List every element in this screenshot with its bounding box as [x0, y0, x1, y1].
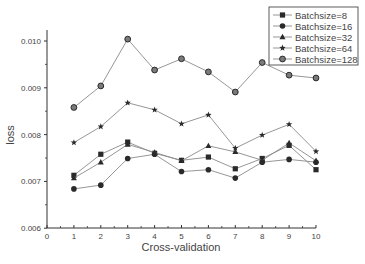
- circle-marker-icon: [280, 23, 286, 29]
- gray-circle-marker-icon: [259, 60, 265, 66]
- star-marker-icon: [151, 106, 157, 112]
- gray-circle-marker-icon: [313, 75, 319, 81]
- circle-marker-icon: [125, 156, 131, 162]
- series-line: [74, 154, 316, 189]
- x-axis-label: Cross-validation: [142, 241, 221, 253]
- x-tick-label: 4: [152, 232, 157, 241]
- gray-circle-marker-icon: [71, 105, 77, 111]
- square-marker-icon: [233, 166, 238, 171]
- x-tick-label: 8: [260, 232, 265, 241]
- x-tick-label: 9: [287, 232, 292, 241]
- x-tick-label: 1: [72, 232, 77, 241]
- triangle-marker-icon: [286, 140, 292, 145]
- x-tick-label: 5: [179, 232, 184, 241]
- circle-marker-icon: [233, 175, 239, 181]
- square-marker-icon: [206, 154, 211, 159]
- star-marker-icon: [259, 132, 265, 138]
- gray-circle-marker-icon: [179, 56, 185, 62]
- gray-circle-marker-icon: [206, 69, 212, 75]
- square-marker-icon: [98, 152, 103, 157]
- legend-label: Batchsize=128: [295, 54, 358, 65]
- legend-label: Batchsize=16: [295, 21, 352, 32]
- gray-circle-marker-icon: [152, 67, 158, 73]
- chart-svg: 0.0060.0070.0080.0090.010012345678910 Ba…: [0, 0, 365, 264]
- star-marker-icon: [71, 139, 77, 145]
- circle-marker-icon: [286, 157, 292, 163]
- x-tick-label: 0: [45, 232, 50, 241]
- square-marker-icon: [313, 167, 318, 172]
- series-batchsize-8: [71, 139, 318, 177]
- gray-circle-marker-icon: [125, 36, 131, 42]
- series-line: [74, 103, 316, 152]
- circle-marker-icon: [98, 182, 104, 188]
- y-tick-label: 0.006: [21, 224, 42, 233]
- y-tick-label: 0.009: [21, 84, 42, 93]
- line-chart: 0.0060.0070.0080.0090.010012345678910 Ba…: [0, 0, 365, 264]
- gray-circle-marker-icon: [280, 56, 286, 62]
- y-tick-label: 0.010: [21, 37, 42, 46]
- triangle-marker-icon: [313, 158, 319, 163]
- gray-circle-marker-icon: [232, 89, 238, 95]
- legend: Batchsize=8Batchsize=16Batchsize=32Batch…: [269, 7, 358, 65]
- x-tick-label: 6: [206, 232, 211, 241]
- legend-label: Batchsize=64: [295, 43, 352, 54]
- star-marker-icon: [178, 120, 184, 126]
- y-axis-label: loss: [4, 125, 16, 145]
- y-tick-label: 0.007: [21, 177, 42, 186]
- circle-marker-icon: [179, 169, 185, 175]
- triangle-marker-icon: [98, 159, 104, 164]
- gray-circle-marker-icon: [286, 72, 292, 78]
- gray-circle-marker-icon: [98, 83, 104, 89]
- y-tick-label: 0.008: [21, 131, 42, 140]
- triangle-marker-icon: [205, 143, 211, 148]
- x-tick-label: 10: [312, 232, 321, 241]
- x-tick-label: 3: [125, 232, 130, 241]
- x-tick-label: 7: [233, 232, 238, 241]
- legend-label: Batchsize=8: [295, 10, 347, 21]
- circle-marker-icon: [71, 186, 77, 192]
- square-marker-icon: [280, 12, 285, 17]
- legend-label: Batchsize=32: [295, 32, 352, 43]
- star-marker-icon: [205, 112, 211, 118]
- circle-marker-icon: [206, 167, 212, 173]
- x-tick-label: 2: [99, 232, 104, 241]
- series-batchsize-64: [71, 99, 320, 154]
